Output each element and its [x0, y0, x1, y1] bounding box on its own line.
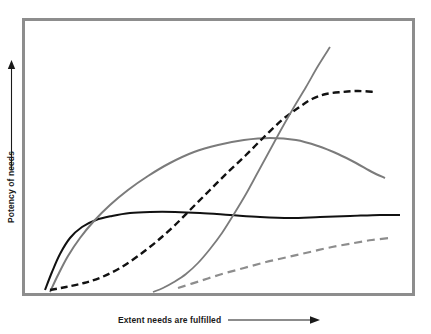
- x-axis-label: Extent needs are fulfilled: [118, 315, 221, 325]
- arrow-right-icon: [228, 315, 320, 325]
- y-axis-label: Potency of needs: [4, 132, 18, 242]
- plot-frame: [22, 18, 415, 296]
- chart-page: Potency of needs Extent needs are fulfil…: [0, 0, 431, 334]
- y-axis-group: Potency of needs: [0, 60, 20, 290]
- x-axis-group: Extent needs are fulfilled: [118, 313, 320, 327]
